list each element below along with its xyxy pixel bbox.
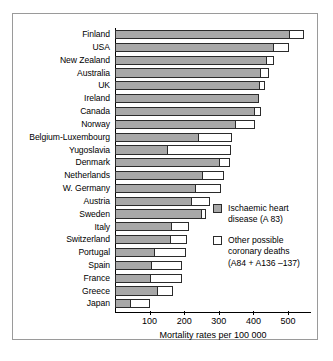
x-axis-tick-label: 500 [268,316,308,326]
category-label: Denmark [2,158,110,167]
legend-swatch-ischaemic-icon [213,204,222,213]
bar-segment-other [290,30,303,39]
bar-row [115,184,221,193]
category-label: France [2,274,110,283]
bar-row [115,209,206,218]
category-label: Yugoslavia [2,146,110,155]
bar-segment-other [151,274,182,283]
bar-segment-ischaemic [115,248,155,257]
category-label: Finland [2,30,110,39]
bar-row [115,133,232,142]
bar-segment-ischaemic [115,158,220,167]
category-label: Netherlands [2,171,110,180]
legend-item: Ischaemic heart disease (A 83) [213,203,321,226]
bar-segment-ischaemic [115,81,260,90]
legend-swatch-other-icon [213,236,222,245]
bar-row [115,222,189,231]
bar-row [115,94,259,103]
bar-segment-ischaemic [115,107,255,116]
bar-segment-ischaemic [115,209,202,218]
category-label: Spain [2,261,110,270]
bar-row [115,107,261,116]
chart-figure: FinlandUSANew ZealandAustraliaUKIrelandC… [0,0,333,361]
bar-segment-other [236,120,255,129]
bar-segment-other [131,299,149,308]
bar-segment-other [199,133,232,142]
bar-segment-ischaemic [115,94,259,103]
x-axis-tick [219,311,220,315]
category-label: Switzerland [2,235,110,244]
category-label: Australia [2,69,110,78]
category-label: W. Germany [2,184,110,193]
category-label: Portugal [2,248,110,257]
legend-label: Ischaemic heart disease (A 83) [228,203,321,226]
plot-area: FinlandUSANew ZealandAustraliaUKIrelandC… [0,0,333,361]
category-label: Japan [2,299,110,308]
bar-row [115,56,274,65]
bar-segment-ischaemic [115,43,274,52]
x-axis-tick [184,311,185,315]
category-label: Belgium-Luxembourg [2,133,110,142]
bar-row [115,145,231,154]
bar-segment-ischaemic [115,197,192,206]
bar-segment-ischaemic [115,299,131,308]
bar-row [115,299,150,308]
bar-segment-ischaemic [115,56,267,65]
category-label: Canada [2,107,110,116]
x-axis-tick [150,311,151,315]
bar-row [115,235,187,244]
category-label: Norway [2,120,110,129]
bar-segment-other [196,184,220,193]
bar-segment-other [171,235,187,244]
bar-row [115,81,265,90]
bar-segment-other [192,197,210,206]
legend-item: Other possible coronary deaths (A84 + A1… [213,235,321,269]
bar-segment-other [152,261,182,270]
category-label: Italy [2,223,110,232]
bar-row [115,261,182,270]
bar-segment-ischaemic [115,120,236,129]
bar-segment-ischaemic [115,261,152,270]
bar-row [115,286,173,295]
bar-row [115,197,210,206]
bar-segment-other [220,158,230,167]
x-axis-tick [288,311,289,315]
legend-label: Other possible coronary deaths (A84 + A1… [228,235,321,269]
bar-segment-ischaemic [115,30,290,39]
category-label: Austria [2,197,110,206]
bar-segment-other [260,81,266,90]
x-axis-line [115,312,311,313]
bar-row [115,158,230,167]
bar-segment-ischaemic [115,222,172,231]
bar-segment-ischaemic [115,171,203,180]
x-axis-title: Mortality rates per 100 000 [115,330,311,340]
bar-segment-other [172,222,189,231]
bar-segment-other [274,43,289,52]
category-label: New Zealand [2,56,110,65]
bar-segment-other [202,209,206,218]
bar-row [115,68,269,77]
x-axis-tick [253,311,254,315]
bar-segment-other [203,171,224,180]
bar-segment-ischaemic [115,145,168,154]
bar-segment-ischaemic [115,184,196,193]
chart-legend: Ischaemic heart disease (A 83)Other poss… [213,203,321,278]
bar-row [115,30,304,39]
bar-segment-ischaemic [115,133,199,142]
category-label: Sweden [2,210,110,219]
category-axis-labels: FinlandUSANew ZealandAustraliaUKIrelandC… [0,0,110,361]
bar-segment-other [168,145,230,154]
bar-row [115,274,182,283]
category-label: Greece [2,287,110,296]
bar-row [115,120,255,129]
bar-row [115,43,289,52]
bar-segment-ischaemic [115,286,158,295]
bar-segment-other [261,68,269,77]
category-label: UK [2,81,110,90]
bar-row [115,248,186,257]
bar-segment-other [255,107,261,116]
bar-segment-ischaemic [115,68,261,77]
bar-segment-other [158,286,173,295]
bar-segment-ischaemic [115,235,171,244]
category-label: USA [2,43,110,52]
